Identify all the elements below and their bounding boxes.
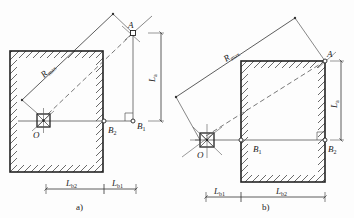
point-a-label-b: A: [326, 49, 333, 59]
la-label-a: La: [147, 74, 158, 83]
lb1-label-a: Lb1: [111, 178, 123, 189]
caption-a: a): [76, 202, 83, 212]
point-o-label: O: [33, 130, 40, 140]
building-outline-b: [241, 61, 325, 182]
lb1-label-b: Lb1: [213, 186, 225, 197]
diagram-canvas: A O B2 B1 Rmax La Lb2 Lb1 a): [0, 0, 354, 218]
lb2-label-b: Lb2: [275, 186, 287, 197]
point-b2-label-b: B2: [328, 144, 337, 155]
point-a-label: A: [127, 20, 134, 30]
la-label-b: La: [329, 100, 340, 109]
point-o-label-b: O: [197, 150, 204, 160]
lb2-label-a: Lb2: [65, 178, 77, 189]
point-b2-label: B2: [108, 125, 117, 136]
caption-b: b): [262, 202, 270, 212]
rmax-label-b: Rmax: [221, 47, 241, 65]
point-b1-label: B1: [137, 121, 146, 132]
panel-a: A O B2 B1 Rmax La Lb2 Lb1 a): [10, 13, 164, 212]
panel-b: A O B1 B2 Rmax La Lb1 Lb2 b): [175, 17, 344, 212]
